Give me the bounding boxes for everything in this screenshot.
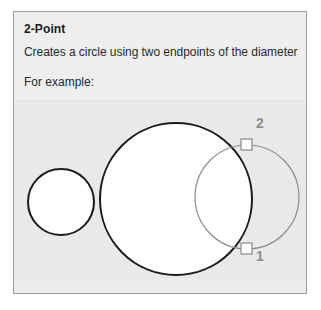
tooltip-text-block: 2-Point Creates a circle using two endpo… [14,12,306,100]
small-circle-shape [28,169,94,235]
tooltip-example-label: For example: [24,75,94,89]
endpoint-label-1: 1 [256,248,264,264]
tooltip-panel: 2-Point Creates a circle using two endpo… [13,11,307,294]
large-circle-shape [100,123,252,275]
page-title: 2-Point [24,22,65,36]
illustration-bottom-band [14,279,306,293]
endpoint-marker-2[interactable] [241,139,252,150]
tooltip-description: Creates a circle using two endpoints of … [24,45,298,59]
two-point-circle-diagram: 2 1 [14,101,306,293]
endpoint-label-2: 2 [256,115,264,131]
illustration-area: 2 1 [14,101,306,293]
endpoint-marker-1[interactable] [241,243,252,254]
